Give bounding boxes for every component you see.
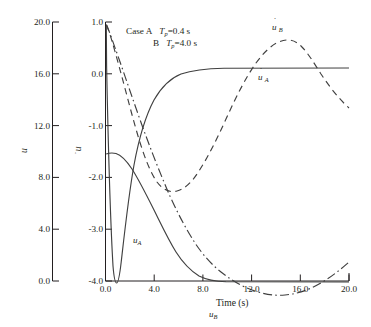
legend-line-case-a: Case ATp=0.4 s xyxy=(126,26,190,37)
y-inner-tick-neg2: -2.0 xyxy=(60,172,103,182)
legend-line-case-b: BTp=4.0 s xyxy=(153,38,197,49)
curve-label-udot-a-sub: A xyxy=(265,76,269,83)
y-outer-tick-20: 20.0 xyxy=(7,17,50,27)
chart-svg xyxy=(0,0,371,327)
x-tick-20: 20.0 xyxy=(332,284,367,294)
y-inner-axis-dot-accent: ˙ xyxy=(73,151,83,154)
x-tick-4: 4.0 xyxy=(137,284,172,294)
y-inner-tick-neg1: -1.0 xyxy=(60,121,103,131)
y-outer-tick-4: 4.0 xyxy=(7,224,50,234)
x-tick-16: 16.0 xyxy=(283,284,318,294)
y-inner-tick-1: 1.0 xyxy=(60,17,103,27)
x-tick-8: 8.0 xyxy=(185,284,220,294)
curve-u-a xyxy=(106,153,349,282)
y-outer-tick-0: 0.0 xyxy=(7,276,50,286)
y-outer-axis-title: u xyxy=(18,148,29,153)
y-inner-axis-title: ˙u xyxy=(72,147,83,155)
y-outer-tick-8: 8.0 xyxy=(7,172,50,182)
curve-label-u-b-sub: B xyxy=(214,313,218,320)
outer-u-axis xyxy=(53,22,60,281)
curve-label-udot-a-dot: ˙ xyxy=(260,66,263,76)
curve-label-udot-a: u ˙ A xyxy=(258,72,269,83)
y-outer-tick-16: 16.0 xyxy=(7,69,50,79)
y-inner-tick-0: 0.0 xyxy=(60,69,103,79)
y-outer-tick-12: 12.0 xyxy=(7,121,50,131)
curve-udot-b xyxy=(107,25,350,192)
legend-case-a-value: =0.4 s xyxy=(168,26,191,36)
curve-label-udot-b-dot: ˙ xyxy=(274,16,277,26)
curve-label-udot-b-sub: B xyxy=(279,26,283,33)
figure-chart-dual-axis: 20.0 16.0 12.0 8.0 4.0 0.0 u 1.0 0.0 -1.… xyxy=(0,0,371,327)
x-axis xyxy=(106,273,350,281)
legend-case-a-text: Case A xyxy=(126,26,152,36)
legend-case-b-value: =4.0 s xyxy=(174,38,197,48)
y-inner-axis-title-text: u xyxy=(72,147,83,152)
curve-label-u-a: uA xyxy=(133,235,141,246)
curve-udot-a xyxy=(106,26,349,283)
curve-label-u-a-sub: A xyxy=(138,239,142,246)
curve-label-u-b: uB xyxy=(209,309,217,320)
curve-u-b xyxy=(106,25,349,296)
y-inner-tick-neg3: -3.0 xyxy=(60,224,103,234)
x-tick-12: 12.0 xyxy=(234,284,269,294)
curve-label-udot-b: u ˙ B xyxy=(272,22,283,33)
legend-case-b-text: B xyxy=(153,38,159,48)
x-axis-title: Time (s) xyxy=(216,297,248,308)
x-tick-0: 0.0 xyxy=(88,284,123,294)
